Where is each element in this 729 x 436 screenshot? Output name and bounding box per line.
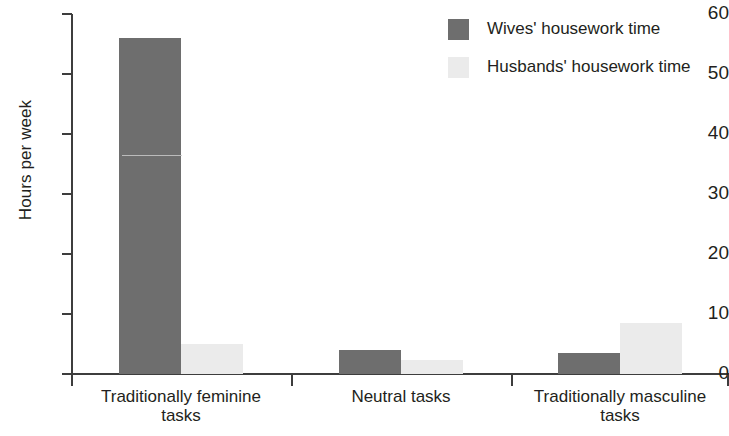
x-category-label: Traditionally femininetasks — [71, 387, 291, 425]
y-tick-label: 40 — [683, 123, 729, 142]
bar-husbands-group-2 — [401, 360, 463, 374]
chart-legend: Wives' housework time Husbands' housewor… — [448, 10, 691, 86]
x-category-label-line: tasks — [71, 406, 291, 425]
x-category-label-line: Traditionally feminine — [71, 387, 291, 406]
bar-husbands-group-3 — [620, 323, 682, 374]
bar-chart: Hours per week 0102030405060 Traditional… — [0, 0, 729, 436]
y-tick-mark — [62, 73, 72, 75]
y-tick-label: 20 — [683, 243, 729, 262]
x-tick-mark — [71, 375, 73, 386]
legend-swatch-icon-husbands — [448, 57, 469, 78]
y-tick-mark — [62, 193, 72, 195]
legend-label-husbands: Husbands' housework time — [487, 57, 691, 77]
legend-label-wives: Wives' housework time — [487, 19, 660, 39]
x-category-label-line: tasks — [511, 406, 729, 425]
y-tick-mark — [62, 253, 72, 255]
bar-wives-group-1 — [119, 38, 181, 374]
x-tick-mark — [291, 375, 293, 386]
bar-wives-group-2 — [339, 350, 401, 374]
x-category-label: Traditionally masculinetasks — [511, 387, 729, 425]
scan-artifact-line — [122, 155, 182, 156]
y-tick-label: 30 — [683, 183, 729, 202]
legend-item-wives: Wives' housework time — [448, 10, 691, 48]
x-tick-mark — [511, 375, 513, 386]
y-axis-title: Hours per week — [16, 50, 36, 270]
legend-swatch-icon-wives — [448, 19, 469, 40]
y-tick-mark — [62, 313, 72, 315]
y-tick-label: 0 — [683, 363, 729, 382]
legend-item-husbands: Husbands' housework time — [448, 48, 691, 86]
x-category-label: Neutral tasks — [291, 387, 511, 406]
x-category-label-line: Traditionally masculine — [511, 387, 729, 406]
y-tick-mark — [62, 133, 72, 135]
x-category-label-line: Neutral tasks — [291, 387, 511, 406]
y-tick-label: 10 — [683, 303, 729, 322]
bar-wives-group-3 — [558, 353, 620, 374]
bar-husbands-group-1 — [181, 344, 243, 374]
y-tick-mark — [62, 13, 72, 15]
